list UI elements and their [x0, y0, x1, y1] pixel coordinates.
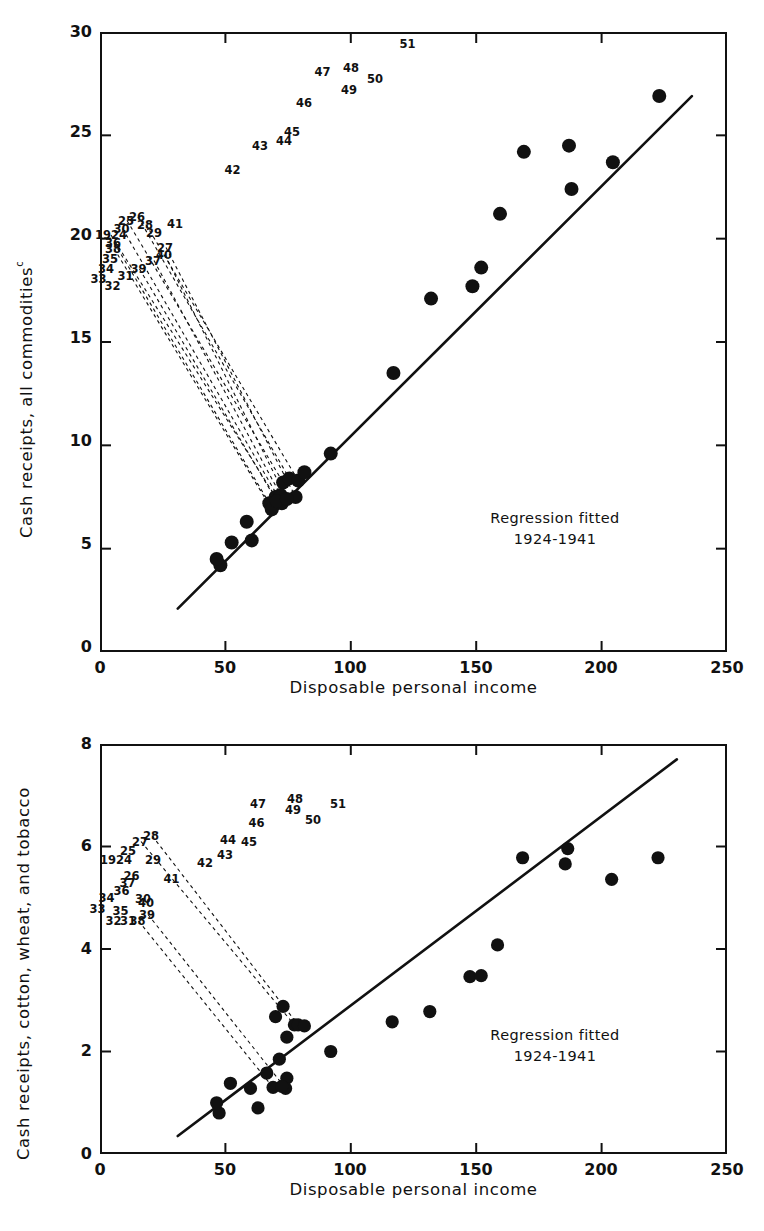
data-point	[225, 535, 239, 549]
point-label-49: 49	[285, 803, 301, 817]
chart-bottom-xtick-0: 0	[80, 1160, 120, 1179]
chart-top-xtick-150: 150	[456, 658, 496, 677]
point-label-51: 51	[400, 37, 416, 51]
chart-bottom-regression-note-line1: Regression fitted	[430, 1025, 680, 1046]
point-label-28: 28	[143, 829, 159, 843]
data-point	[386, 366, 400, 380]
chart-top-all-commodities: Cash receipts, all commoditiesc 30 25 20…	[0, 0, 764, 690]
point-label-40: 40	[156, 248, 172, 262]
point-label-37: 37	[120, 876, 136, 890]
chart-top-xtick-250: 250	[707, 658, 747, 677]
chart-top-xtick-100: 100	[330, 658, 370, 677]
point-label-51: 51	[330, 797, 346, 811]
data-point	[251, 1101, 264, 1114]
chart-bottom-regression-note: Regression fitted 1924-1941	[430, 1025, 680, 1067]
data-point	[240, 515, 254, 529]
data-point	[423, 1005, 436, 1018]
point-label-43: 43	[217, 848, 233, 862]
data-point	[275, 1080, 288, 1093]
data-point	[324, 1045, 337, 1058]
chart-bottom-x-axis-label: Disposable personal income	[100, 1180, 727, 1199]
data-point	[210, 1096, 223, 1109]
data-point	[475, 969, 488, 982]
data-point	[273, 1053, 286, 1066]
point-label-42: 42	[225, 163, 241, 177]
data-point	[386, 1015, 399, 1028]
point-label-29: 29	[145, 853, 161, 867]
data-point	[561, 842, 574, 855]
point-label-47: 47	[250, 797, 266, 811]
point-label-44: 44	[220, 833, 236, 847]
data-point	[517, 145, 531, 159]
data-point	[210, 552, 224, 566]
data-point	[652, 89, 666, 103]
point-label-45: 45	[241, 835, 257, 849]
data-point	[245, 533, 259, 547]
data-point	[651, 851, 664, 864]
chart-top-regression-note-line1: Regression fitted	[430, 508, 680, 529]
data-point	[565, 182, 579, 196]
data-point	[606, 155, 620, 169]
chart-bottom-xtick-100: 100	[330, 1160, 370, 1179]
point-label-48: 48	[343, 61, 359, 75]
point-label-30: 30	[114, 222, 130, 236]
chart-bottom-xtick-150: 150	[456, 1160, 496, 1179]
chart-top-regression-note: Regression fitted 1924-1941	[430, 508, 680, 550]
point-label-43: 43	[252, 139, 268, 153]
point-label-50: 50	[305, 813, 321, 827]
point-label-42: 42	[197, 856, 213, 870]
point-label-29: 29	[146, 226, 162, 240]
point-label-45: 45	[284, 125, 300, 139]
chart-top-regression-note-line2: 1924-1941	[430, 529, 680, 550]
data-point	[491, 938, 504, 951]
chart-bottom-cotton-wheat-tobacco: Cash receipts, cotton, wheat, and tobacc…	[0, 690, 764, 1231]
data-point	[465, 279, 479, 293]
data-point	[559, 857, 572, 870]
point-label-49: 49	[341, 83, 357, 97]
data-point	[280, 1031, 293, 1044]
chart-top-xtick-0: 0	[80, 658, 120, 677]
chart-top-plot-overlay	[0, 0, 764, 690]
chart-top-xtick-200: 200	[581, 658, 621, 677]
point-label-38: 38	[105, 242, 121, 256]
data-point	[324, 447, 338, 461]
data-point	[474, 261, 488, 275]
chart-bottom-regression-note-line2: 1924-1941	[430, 1046, 680, 1067]
point-label-39: 39	[131, 262, 147, 276]
point-label-32: 32	[105, 279, 121, 293]
point-label-46: 46	[249, 816, 265, 830]
data-point	[276, 1000, 289, 1013]
point-label-41: 41	[167, 217, 183, 231]
point-label-50: 50	[367, 72, 383, 86]
point-label-47: 47	[315, 65, 331, 79]
point-label-46: 46	[296, 96, 312, 110]
data-point	[280, 492, 294, 506]
chart-bottom-xtick-200: 200	[581, 1160, 621, 1179]
point-label-35: 35	[113, 904, 129, 918]
chart-bottom-xtick-50: 50	[205, 1160, 245, 1179]
data-point	[298, 1019, 311, 1032]
data-point	[244, 1082, 257, 1095]
chart-bottom-plot-overlay	[0, 690, 764, 1231]
data-point	[224, 1077, 237, 1090]
data-point	[562, 139, 576, 153]
chart-top-xtick-50: 50	[205, 658, 245, 677]
chart-bottom-xtick-250: 250	[707, 1160, 747, 1179]
data-point	[463, 970, 476, 983]
data-point	[516, 851, 529, 864]
data-point	[493, 207, 507, 221]
data-point	[297, 465, 311, 479]
data-point	[260, 1066, 273, 1079]
point-label-40: 40	[138, 896, 154, 910]
point-label-41: 41	[164, 872, 180, 886]
data-point	[424, 292, 438, 306]
data-point	[605, 873, 618, 886]
